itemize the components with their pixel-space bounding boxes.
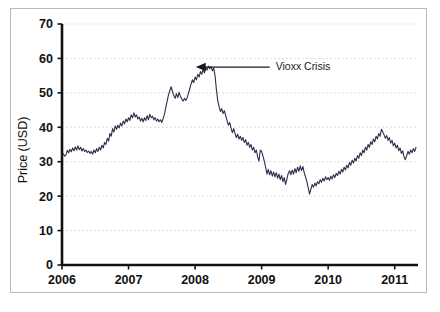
y-tick-label: 0: [46, 258, 53, 272]
price-series-line: [62, 66, 416, 194]
annotation-arrow-head: [196, 63, 206, 71]
y-tick-label: 70: [39, 17, 53, 31]
y-tick-label: 30: [39, 155, 53, 169]
y-tick-label: 60: [39, 52, 53, 66]
annotation-vioxx-crisis: Vioxx Crisis: [196, 60, 331, 72]
annotation-label: Vioxx Crisis: [276, 60, 331, 72]
y-tick-labels: 010203040506070: [39, 17, 53, 272]
x-tick-label: 2009: [248, 273, 276, 287]
x-tick-label: 2011: [381, 273, 408, 287]
x-tick-labels: 200620072008200920102011: [48, 273, 408, 287]
y-axis-title: Price (USD): [16, 117, 30, 184]
x-tick-label: 2006: [48, 273, 76, 287]
chart-figure: 010203040506070 200620072008200920102011…: [0, 0, 440, 312]
y-tick-label: 50: [39, 86, 53, 100]
gridlines: [62, 24, 418, 265]
y-tick-label: 10: [39, 224, 53, 238]
x-tick-label: 2008: [181, 273, 209, 287]
x-tick-label: 2010: [314, 273, 342, 287]
x-tick-label: 2007: [115, 273, 143, 287]
y-tick-label: 20: [39, 190, 53, 204]
price-line-chart: 010203040506070 200620072008200920102011…: [0, 0, 440, 312]
y-tick-label: 40: [39, 121, 53, 135]
